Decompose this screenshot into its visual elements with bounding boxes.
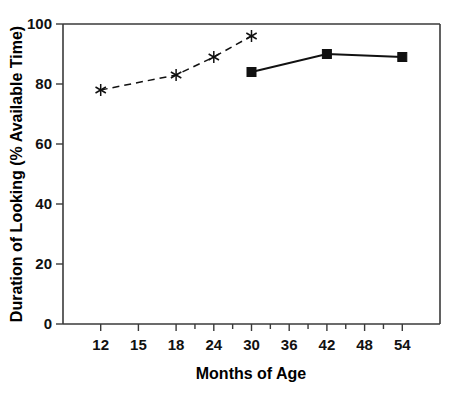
x-tick-label: 48 <box>356 336 373 353</box>
y-tick-label: 20 <box>35 255 52 272</box>
x-tick-label: 30 <box>243 336 260 353</box>
x-tick-label: 24 <box>205 336 222 353</box>
line-chart: 020406080100 121518243036424854 Months o… <box>0 0 458 395</box>
y-tick-label: 40 <box>35 195 52 212</box>
x-axis-title: Months of Age <box>196 365 307 382</box>
x-tick-label: 36 <box>281 336 298 353</box>
y-axis-title: Duration of Looking (% Available Time) <box>8 26 25 322</box>
x-tick-label: 18 <box>168 336 185 353</box>
data-point-square-marker <box>398 53 407 62</box>
x-tick-label: 15 <box>130 336 147 353</box>
data-point-square-marker <box>247 68 256 77</box>
y-tick-label: 0 <box>44 315 52 332</box>
x-tick-label: 54 <box>394 336 411 353</box>
x-tick-label: 42 <box>319 336 336 353</box>
x-tick-label: 12 <box>92 336 109 353</box>
data-point-square-marker <box>322 50 331 59</box>
y-tick-label: 80 <box>35 75 52 92</box>
y-tick-label: 100 <box>27 15 52 32</box>
chart-background <box>0 0 458 395</box>
y-tick-label: 60 <box>35 135 52 152</box>
chart-container: 020406080100 121518243036424854 Months o… <box>0 0 458 395</box>
